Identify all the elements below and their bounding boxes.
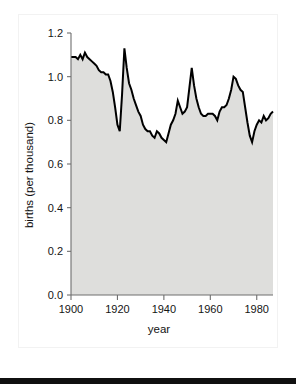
y-tick-label: 1.2: [48, 27, 63, 39]
y-tick-label: 1.0: [48, 71, 63, 83]
series-area-and-line: [71, 48, 273, 295]
y-axis-ticks: 0.00.20.40.60.81.01.2: [48, 27, 71, 301]
x-tick-label: 1980: [245, 303, 269, 315]
x-tick-label: 1960: [198, 303, 222, 315]
x-tick-label: 1940: [152, 303, 176, 315]
x-tick-label: 1920: [105, 303, 129, 315]
y-tick-label: 0.0: [48, 289, 63, 301]
y-tick-label: 0.2: [48, 245, 63, 257]
x-axis-title: year: [148, 323, 171, 335]
figure-card: 0.00.20.40.60.81.01.2 190019201940196019…: [18, 14, 278, 348]
y-tick-label: 0.4: [48, 202, 63, 214]
series-fill: [71, 48, 273, 295]
bottom-edge-bar: [0, 378, 296, 384]
births-per-thousand-chart: 0.00.20.40.60.81.01.2 190019201940196019…: [19, 15, 279, 349]
y-tick-label: 0.6: [48, 158, 63, 170]
y-axis-title: births (per thousand): [23, 122, 35, 228]
y-tick-label: 0.8: [48, 114, 63, 126]
x-axis-ticks: 19001920194019601980: [59, 295, 269, 315]
x-tick-label: 1900: [59, 303, 83, 315]
